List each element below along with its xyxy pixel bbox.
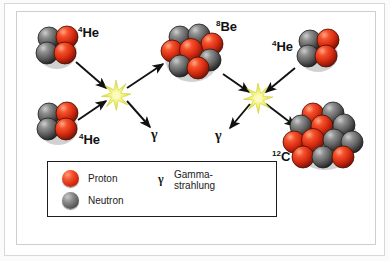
arrow-burst-right-to-gamma <box>230 104 250 128</box>
label-mass-number: 12 <box>272 149 281 158</box>
label-element-symbol: Be <box>220 19 237 34</box>
nucleon-proton <box>332 146 354 168</box>
legend-gamma-label-line2: strahlung <box>174 180 215 191</box>
nucleus-he4-top-left <box>36 26 78 69</box>
nucleus-c12 <box>283 102 363 170</box>
burst-left <box>101 80 131 111</box>
label-element-symbol: He <box>276 39 293 54</box>
arrow-be8-to-burst-right <box>223 74 249 92</box>
neutron-sphere-icon <box>62 192 79 209</box>
reaction-diagram <box>0 0 390 261</box>
nucleon-proton <box>315 45 337 67</box>
nucleus-he4-top-right <box>297 29 339 72</box>
legend-label-neutron: Neutron <box>88 195 124 206</box>
arrow-burst-left-to-be8 <box>127 64 163 88</box>
legend-gamma-symbol: γ <box>158 172 164 187</box>
legend-label-proton: Proton <box>88 173 117 184</box>
nucleon-proton <box>292 146 314 168</box>
legend-box: Proton Neutron γ Gamma- strahlung <box>47 161 277 217</box>
label-element-symbol: He <box>82 25 99 40</box>
burst-right <box>243 83 273 114</box>
arrow-he4-bottomleft-to-burst-left <box>78 101 106 120</box>
gamma-label-left: γ <box>151 128 158 142</box>
label-element-symbol: C <box>281 149 290 164</box>
label-he4-bottom-left: 4He <box>79 133 100 146</box>
nucleus-be8 <box>161 24 223 82</box>
label-he4-top-right: 4He <box>272 40 293 53</box>
label-element-symbol: He <box>83 132 100 147</box>
nucleus-he4-bottom-left <box>37 102 78 145</box>
label-be8: 8Be <box>216 20 237 33</box>
legend-item-proton: Proton <box>62 170 117 187</box>
nucleon-proton <box>187 57 209 79</box>
label-he4-top-left: 4He <box>78 26 99 39</box>
nucleon-neutron <box>312 146 334 168</box>
arrow-he4-topleft-to-burst-left <box>76 62 106 88</box>
legend-gamma-label-line1: Gamma- <box>174 169 215 180</box>
nucleon-proton <box>55 118 77 140</box>
proton-sphere-icon <box>62 170 79 187</box>
arrow-he4-topright-to-burst-right <box>266 68 295 92</box>
diagram-root: 4He 4He 8Be 4He 12C γ γ Proton Neutron γ… <box>0 0 390 261</box>
diagram-stage: 4He 4He 8Be 4He 12C γ γ Proton Neutron γ… <box>0 0 390 261</box>
gamma-label-right: γ <box>215 129 222 143</box>
nucleon-proton <box>54 42 76 64</box>
legend-item-neutron: Neutron <box>62 192 124 209</box>
legend-gamma-label: Gamma- strahlung <box>174 169 215 191</box>
arrow-burst-left-to-gamma <box>127 101 150 127</box>
